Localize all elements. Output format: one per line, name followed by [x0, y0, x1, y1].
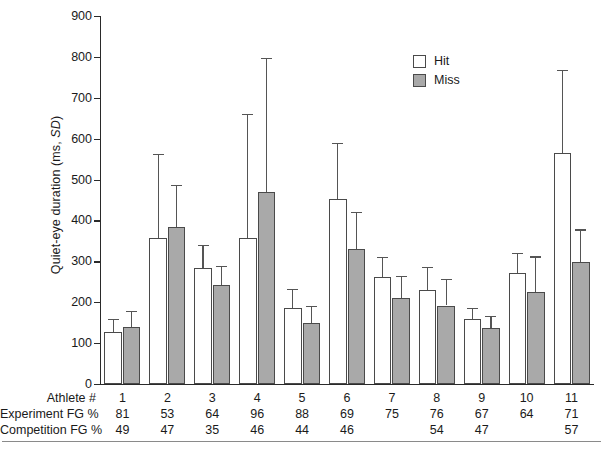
error-bar-line [490, 316, 491, 328]
table-row-header: Competition FG % [0, 422, 96, 438]
y-tick-label: 300 [54, 254, 92, 268]
table-cell: 75 [370, 406, 414, 422]
legend-item-miss: Miss [413, 71, 460, 90]
y-tick-mark [94, 343, 100, 344]
error-bar-line [266, 58, 267, 193]
table-cell: 67 [460, 406, 504, 422]
bar-hit-athlete-10 [509, 273, 527, 384]
y-tick-label: 400 [54, 213, 92, 227]
table-cell: 88 [280, 406, 324, 422]
error-bar-line [221, 266, 222, 286]
error-bar-line [382, 257, 383, 277]
y-tick-mark [94, 16, 100, 17]
table-cell: 49 [100, 422, 144, 438]
error-bar-line [562, 70, 563, 153]
error-bar-cap [306, 306, 317, 307]
y-tick-mark [94, 139, 100, 140]
bar-miss-athlete-8 [437, 306, 455, 385]
error-bar-cap [485, 316, 496, 317]
y-tick-mark [94, 98, 100, 99]
table-cell: 44 [280, 422, 324, 438]
error-bar-line [131, 311, 132, 327]
table-cell: 46 [325, 422, 369, 438]
y-tick-mark [94, 57, 100, 58]
error-bar-line [311, 306, 312, 322]
error-bar-cap [530, 256, 541, 257]
table-cell: 3 [190, 390, 234, 406]
error-bar-cap [557, 70, 568, 71]
legend-item-hit: Hit [413, 52, 460, 71]
table-row: Competition FG %494735464446544757 [0, 422, 603, 438]
table-row: Experiment FG %8153649688697576676471 [0, 406, 603, 422]
bar-hit-athlete-11 [554, 153, 572, 384]
legend-label-hit: Hit [434, 55, 449, 68]
table-cell: 54 [415, 422, 459, 438]
error-bar-line [580, 229, 581, 262]
error-bar-cap [108, 319, 119, 320]
table-cell: 71 [550, 406, 594, 422]
y-tick-label: 800 [54, 50, 92, 64]
bar-hit-athlete-1 [104, 332, 122, 384]
y-tick-label: 600 [54, 132, 92, 146]
bar-miss-athlete-9 [482, 328, 500, 384]
error-bar-line [472, 308, 473, 320]
chart-figure: Quiet-eye duration (ms, SD) 010020030040… [0, 0, 603, 456]
bar-hit-athlete-2 [149, 238, 167, 384]
table-cell: 4 [235, 390, 279, 406]
error-bar-cap [242, 114, 253, 115]
table-row: Athlete #1234567891011 [0, 390, 603, 406]
bar-hit-athlete-3 [194, 268, 212, 384]
table-cell: 1 [100, 390, 144, 406]
error-bar-line [401, 276, 402, 298]
bar-hit-athlete-7 [374, 277, 392, 384]
error-bar-line [446, 279, 447, 306]
table-cell: 64 [505, 406, 549, 422]
error-bar-line [292, 289, 293, 307]
y-tick-label: 500 [54, 173, 92, 187]
error-bar-line [176, 185, 177, 227]
table-cell: 5 [280, 390, 324, 406]
error-bar-cap [377, 257, 388, 258]
table-cell: 6 [325, 390, 369, 406]
table-cell: 81 [100, 406, 144, 422]
table-cell: 53 [145, 406, 189, 422]
y-tick-mark [94, 384, 100, 385]
y-tick-label: 0 [54, 377, 92, 391]
error-bar-cap [512, 253, 523, 254]
table-cell: 46 [235, 422, 279, 438]
table-cell: 57 [550, 422, 594, 438]
error-bar-cap [198, 245, 209, 246]
bar-miss-athlete-10 [527, 292, 545, 384]
error-bar-line [158, 154, 159, 238]
athlete-data-table: Athlete #1234567891011Experiment FG %815… [0, 390, 603, 438]
table-cell: 2 [145, 390, 189, 406]
error-bar-line [517, 253, 518, 273]
error-bar-line [113, 319, 114, 332]
table-row-header: Experiment FG % [0, 406, 96, 422]
table-cell: 7 [370, 390, 414, 406]
error-bar-line [535, 256, 536, 292]
bar-hit-athlete-8 [419, 290, 437, 384]
error-bar-cap [575, 229, 586, 230]
bar-miss-athlete-6 [348, 249, 366, 384]
error-bar-line [247, 114, 248, 238]
table-cell: 8 [415, 390, 459, 406]
table-cell: 9 [460, 390, 504, 406]
table-cell: 96 [235, 406, 279, 422]
bar-hit-athlete-5 [284, 308, 302, 384]
bar-miss-athlete-4 [258, 192, 276, 384]
y-axis-title-close: ) [49, 116, 63, 120]
table-row-header: Athlete # [0, 390, 96, 406]
bar-hit-athlete-4 [239, 238, 257, 384]
error-bar-cap [441, 279, 452, 280]
error-bar-cap [153, 154, 164, 155]
error-bar-cap [216, 266, 227, 267]
legend-swatch-miss [413, 74, 426, 87]
error-bar-cap [126, 311, 137, 312]
plot-area: 0100200300400500600700800900 [100, 16, 594, 384]
error-bar-cap [467, 308, 478, 309]
y-tick-label: 700 [54, 91, 92, 105]
table-cell: 11 [550, 390, 594, 406]
bar-hit-athlete-9 [464, 319, 482, 384]
legend-swatch-hit [413, 55, 426, 68]
